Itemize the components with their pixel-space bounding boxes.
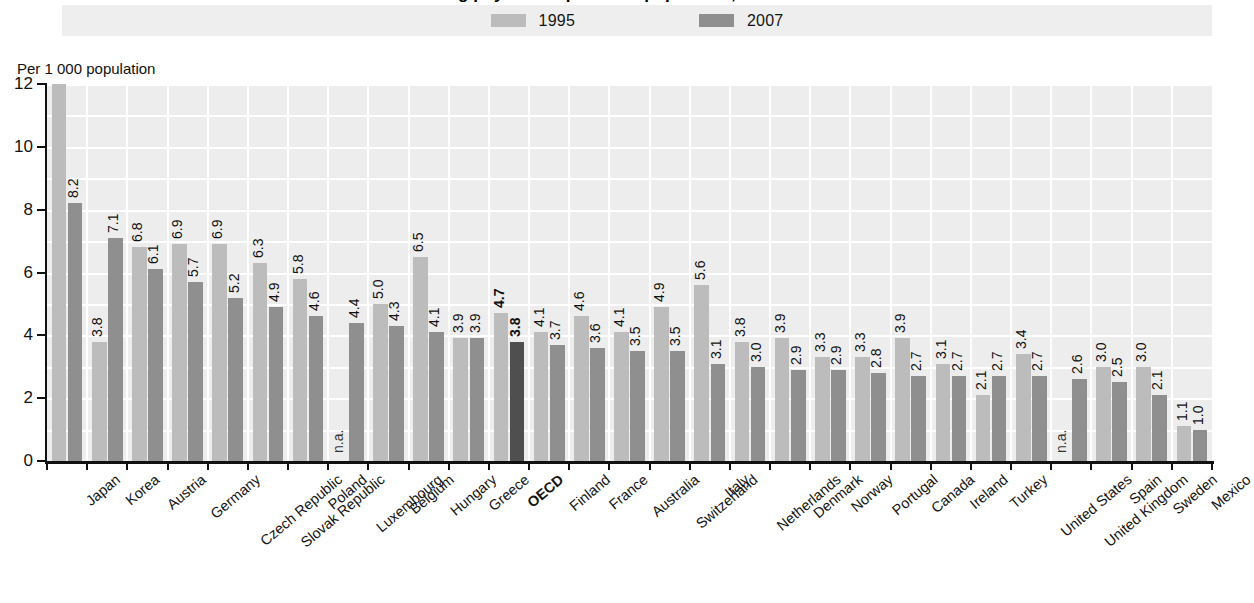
gridline-horizontal [47, 115, 1212, 117]
bar-2007-ireland [952, 376, 967, 461]
value-label-1995-luxembourg: n.a. [331, 430, 345, 453]
value-label-1995-turkey: 2.1 [974, 371, 988, 390]
y-axis-tick [37, 272, 46, 274]
value-label-1995-ireland: 3.1 [934, 339, 948, 358]
bar-2007-canada [911, 376, 926, 461]
value-label-2007-sweden: 2.1 [1150, 371, 1164, 390]
x-axis-line [45, 461, 1214, 464]
value-label-2007-luxembourg: 4.4 [347, 298, 361, 317]
bar-2007-france [590, 348, 605, 461]
gridline-vertical [689, 84, 691, 461]
value-label-1995-czech-republic: 6.9 [210, 220, 224, 239]
bar-1995-hungary [413, 257, 428, 461]
value-label-1995-greece: 3.9 [451, 314, 465, 333]
value-label-1995-united-kingdom: n.a. [1054, 430, 1068, 453]
value-label-2007-canada: 2.7 [909, 352, 923, 371]
y-axis-tick [37, 334, 46, 336]
value-label-2007-germany: 5.7 [186, 257, 200, 276]
gridline-vertical [207, 84, 209, 461]
value-label-2007-hungary: 4.1 [427, 308, 441, 327]
gridline-vertical [408, 84, 410, 461]
bar-2007-poland [309, 316, 324, 461]
bar-2007-germany [188, 282, 203, 461]
value-label-2007-turkey: 2.7 [990, 352, 1004, 371]
bar-2007-portugal [871, 373, 886, 461]
value-label-1995-spain: 3.0 [1094, 342, 1108, 361]
bar-1995-australia [614, 332, 629, 461]
value-label-2007-australia: 3.5 [628, 327, 642, 346]
value-label-1995-canada: 3.9 [893, 314, 907, 333]
gridline-vertical [367, 84, 369, 461]
gridline-vertical [1131, 84, 1133, 461]
bar-2007-switzerland [670, 351, 685, 461]
value-label-2007-united-kingdom: 2.6 [1070, 355, 1084, 374]
value-label-2007-oecd: 3.8 [508, 317, 522, 336]
gridline-vertical [849, 84, 851, 461]
gridline-vertical [608, 84, 610, 461]
value-label-1995-poland: 5.8 [291, 254, 305, 273]
bar-2007-hungary [429, 332, 444, 461]
gridline-vertical [1050, 84, 1052, 461]
value-label-1995-denmark: 3.9 [773, 314, 787, 333]
bar-2007-spain [1112, 382, 1127, 461]
category-label-portugal: Portugal [890, 472, 941, 518]
y-axis-tick-label: 12 [0, 75, 33, 92]
bar-2007-mexico [1193, 430, 1208, 461]
value-label-2007-belgium: 4.3 [387, 301, 401, 320]
gridline-vertical [488, 84, 490, 461]
gridline-vertical [1171, 84, 1173, 461]
value-label-1995-sweden: 3.0 [1134, 342, 1148, 361]
bar-1995-spain [1096, 367, 1111, 461]
value-label-1995-france: 4.6 [572, 292, 586, 311]
value-label-1995-netherlands: 3.8 [733, 317, 747, 336]
category-label-ireland: Ireland [968, 472, 1011, 512]
value-label-2007-portugal: 2.8 [869, 349, 883, 368]
y-axis-tick [37, 397, 46, 399]
bar-2007-sweden [1152, 395, 1167, 461]
gridline-vertical [568, 84, 570, 461]
bar-2007-italy [711, 364, 726, 461]
value-label-2007-norway: 2.9 [829, 345, 843, 364]
value-label-1995-slovak-republic: 6.3 [251, 239, 265, 258]
gridline-vertical [86, 84, 88, 461]
gridline-vertical [809, 84, 811, 461]
bar-2007-korea [108, 238, 123, 461]
bar-1995-ireland [936, 364, 951, 461]
gridline-vertical [528, 84, 530, 461]
bar-2007-norway [831, 370, 846, 461]
bar-1995-japan [52, 84, 67, 461]
bar-1995-finland [534, 332, 549, 461]
value-label-1995-korea: 3.8 [90, 317, 104, 336]
bar-2007-australia [630, 351, 645, 461]
bar-2007-luxembourg [349, 323, 364, 461]
bar-2007-greece [470, 338, 485, 461]
value-label-2007-finland: 3.7 [548, 320, 562, 339]
gridline-vertical [1090, 84, 1092, 461]
bar-1995-portugal [855, 357, 870, 461]
y-axis-tick-label: 4 [0, 326, 33, 343]
category-label-australia: Australia [649, 472, 702, 519]
value-label-2007-united-states: 2.7 [1030, 352, 1044, 371]
gridline-vertical [126, 84, 128, 461]
category-label-austria: Austria [164, 472, 208, 512]
bar-1995-turkey [976, 395, 991, 461]
value-label-1995-norway: 3.3 [813, 333, 827, 352]
category-axis-labels: JapanKoreaAustriaGermanyCzech RepublicSl… [0, 466, 1242, 603]
gridline-horizontal [47, 241, 1212, 243]
gridline-vertical [890, 84, 892, 461]
bar-1995-czech-republic [212, 244, 227, 461]
gridline-vertical [930, 84, 932, 461]
bar-1995-norway [815, 357, 830, 461]
gridline-horizontal [47, 84, 1212, 86]
value-label-2007-france: 3.6 [588, 323, 602, 342]
value-label-1995-switzerland: 4.9 [652, 283, 666, 302]
bar-1995-korea [92, 342, 107, 461]
value-label-1995-hungary: 6.5 [411, 232, 425, 251]
bar-1995-italy [694, 285, 709, 461]
category-label-finland: Finland [567, 472, 613, 514]
plot-area: 12.08.23.87.16.86.16.95.76.95.26.34.95.8… [47, 84, 1212, 461]
category-label-turkey: Turkey [1008, 472, 1051, 511]
value-label-2007-netherlands: 3.0 [749, 342, 763, 361]
value-label-1995-austria: 6.8 [130, 223, 144, 242]
value-label-2007-austria: 6.1 [146, 245, 160, 264]
